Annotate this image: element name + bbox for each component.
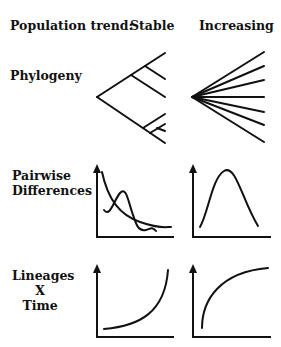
diagram-figures [0,0,281,347]
ltt-stable-plot [93,264,174,337]
pairwise-stable-plot [93,164,174,237]
phylogeny-stable-tree [97,53,165,143]
ltt-increasing-plot [189,264,271,337]
phylogeny-increasing-star [192,52,264,142]
pairwise-increasing-plot [189,164,271,237]
